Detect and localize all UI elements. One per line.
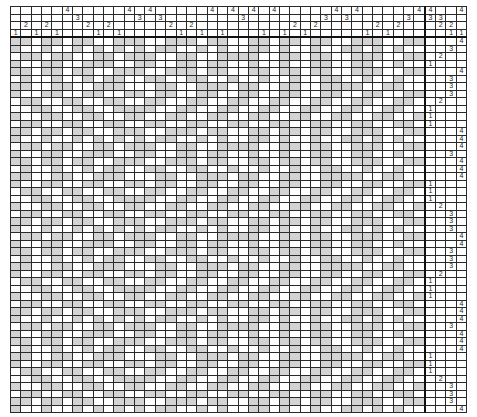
shaded-cell [197,45,207,53]
empty-cell [93,128,103,136]
column-clue-cell [279,14,289,22]
empty-cell [259,323,269,331]
shaded-cell [393,120,403,128]
shaded-cell [197,263,207,271]
empty-cell [269,203,279,211]
shaded-cell [83,68,93,76]
chart-row: 4 [11,233,467,241]
shaded-cell [352,353,362,361]
shaded-cell [135,293,145,301]
chart-row: 3 [11,383,467,391]
shaded-cell [207,68,217,76]
header-clue-row: 111111111111111 [11,29,467,37]
empty-cell [362,285,372,293]
empty-cell [124,263,134,271]
shaded-cell [393,75,403,83]
shaded-cell [73,45,83,53]
shaded-cell [93,225,103,233]
empty-cell [62,248,72,256]
column-clue-cell [321,29,331,37]
empty-cell [176,315,186,323]
shaded-cell [238,368,248,376]
shaded-cell [186,158,196,166]
shaded-cell [83,90,93,98]
empty-cell [83,188,93,196]
shaded-cell [197,255,207,263]
row-clue-cell [446,113,456,121]
empty-cell [300,308,310,316]
empty-cell [300,345,310,353]
empty-cell [31,90,41,98]
corner-clue-cell [436,29,446,37]
shaded-cell [269,368,279,376]
row-clue-cell: 1 [425,105,436,113]
header-clue-row: 444444444444 [11,7,467,15]
shaded-cell [300,285,310,293]
shaded-cell [393,263,403,271]
shaded-cell [186,98,196,106]
column-clue-cell [155,22,165,30]
shaded-cell [93,45,103,53]
empty-cell [238,105,248,113]
empty-cell [290,390,300,398]
empty-cell [73,240,83,248]
shaded-cell [259,375,269,383]
shaded-cell [21,188,31,196]
shaded-cell [207,218,217,226]
empty-cell [342,53,352,61]
shaded-cell [290,233,300,241]
column-clue-cell: 4 [145,7,155,15]
shaded-cell [259,293,269,301]
column-clue-cell [124,22,134,30]
empty-cell [383,308,393,316]
empty-cell [269,150,279,158]
empty-cell [383,300,393,308]
empty-cell [362,293,372,301]
shaded-cell [114,195,124,203]
shaded-cell [166,248,176,256]
shaded-cell [342,135,352,143]
empty-cell [290,240,300,248]
empty-cell [259,300,269,308]
shaded-cell [186,105,196,113]
shaded-cell [21,308,31,316]
empty-cell [104,203,114,211]
empty-cell [176,120,186,128]
shaded-cell [166,128,176,136]
shaded-cell [124,158,134,166]
row-clue-cell [425,218,436,226]
shaded-cell [290,158,300,166]
empty-cell [300,150,310,158]
shaded-cell [373,383,383,391]
empty-cell [228,248,238,256]
empty-cell [269,158,279,166]
empty-cell [393,68,403,76]
empty-cell [124,210,134,218]
empty-cell [300,225,310,233]
shaded-cell [352,135,362,143]
shaded-cell [352,338,362,346]
shaded-cell [124,383,134,391]
shaded-cell [62,98,72,106]
shaded-cell [52,240,62,248]
shaded-cell [290,90,300,98]
empty-cell [42,83,52,91]
shaded-cell [145,75,155,83]
shaded-cell [269,300,279,308]
shaded-cell [290,128,300,136]
row-clue-cell [456,195,466,203]
empty-cell [62,218,72,226]
empty-cell [342,180,352,188]
empty-cell [300,210,310,218]
column-clue-cell [238,22,248,30]
shaded-cell [11,293,21,301]
shaded-cell [104,98,114,106]
shaded-cell [362,368,372,376]
empty-cell [176,390,186,398]
empty-cell [155,285,165,293]
shaded-cell [393,375,403,383]
empty-cell [135,75,145,83]
shaded-cell [310,315,320,323]
chart-row: 4 [11,68,467,76]
empty-cell [300,37,310,45]
